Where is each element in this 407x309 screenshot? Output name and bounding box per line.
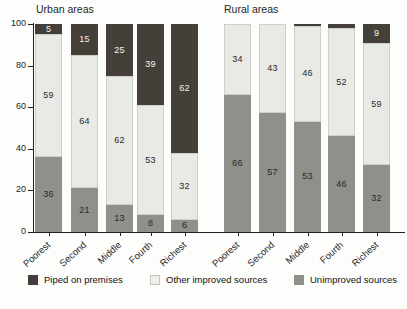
y-tick-label-60: 60 [0,101,26,111]
bar-segment-unimp: 57 [259,113,286,232]
bar-segment-unimp: 66 [224,95,251,232]
legend-item-unimproved: Unimproved sources [294,274,397,285]
y-tick-100 [28,24,33,25]
y-axis-line [33,23,34,233]
legend-label-piped: Piped on premises [44,274,123,285]
bar-value-label: 64 [79,117,89,126]
bar-value-label: 43 [267,64,277,73]
bar-segment-unimp: 46 [328,136,355,232]
bar-segment-unimp: 53 [294,122,321,232]
bar-rural-poorest[interactable]: 6634 [224,24,251,232]
bar-rural-richest[interactable]: 32599 [363,24,390,232]
legend-item-other-improved: Other improved sources [150,274,267,285]
bar-urban-middle[interactable]: 136225 [106,24,133,232]
bar-segment-other: 62 [106,76,133,205]
bar-urban-poorest[interactable]: 36595 [35,24,62,232]
bar-value-label: 13 [114,214,124,223]
bar-segment-piped [328,24,355,28]
y-tick-0 [28,232,33,233]
x-axis-line [33,232,405,233]
x-tick-6 [273,232,274,236]
bar-segment-piped: 62 [171,24,198,153]
bar-segment-piped [294,24,321,26]
y-tick-label-20: 20 [0,184,26,194]
legend-label-unimproved: Unimproved sources [310,274,397,285]
legend-swatch-unimproved [294,275,304,285]
bar-segment-unimp: 8 [137,215,164,232]
y-tick-60 [28,107,33,108]
bar-value-label: 9 [374,29,379,38]
bar-value-label: 66 [232,159,242,168]
plot-area: 020406080100 365952164151362258533963262… [0,0,407,309]
bar-segment-other: 34 [224,24,251,95]
bar-segment-other: 59 [35,34,62,157]
bar-value-label: 21 [79,206,89,215]
x-tick-1 [85,232,86,236]
y-tick-20 [28,190,33,191]
bar-value-label: 6 [182,221,187,230]
bar-value-label: 46 [302,69,312,78]
bar-value-label: 5 [46,25,51,34]
bar-segment-piped: 9 [363,24,390,43]
chart-figure: Urban areas Rural areas 020406080100 365… [0,0,407,309]
bar-segment-piped: 5 [35,24,62,34]
bar-value-label: 46 [336,180,346,189]
bar-segment-other: 32 [171,153,198,220]
bar-value-label: 52 [336,78,346,87]
y-tick-label-0: 0 [0,226,26,236]
bar-segment-other: 43 [259,24,286,113]
legend-item-piped: Piped on premises [28,274,123,285]
bar-value-label: 39 [145,60,155,69]
bar-segment-piped: 15 [71,24,98,55]
bar-value-label: 15 [79,35,89,44]
bar-segment-other: 64 [71,55,98,188]
bar-segment-unimp: 21 [71,188,98,232]
y-tick-40 [28,149,33,150]
bar-segment-other: 52 [328,28,355,136]
bar-segment-unimp: 13 [106,205,133,232]
bar-value-label: 32 [179,182,189,191]
bar-segment-unimp: 36 [35,157,62,232]
bar-value-label: 53 [302,172,312,181]
bar-rural-fourth[interactable]: 4652 [328,24,355,232]
x-tick-4 [185,232,186,236]
bar-value-label: 62 [114,136,124,145]
x-tick-3 [151,232,152,236]
bar-rural-middle[interactable]: 5346 [294,24,321,232]
y-tick-80 [28,66,33,67]
chart-legend: Piped on premises Other improved sources… [22,274,394,290]
bar-urban-second[interactable]: 216415 [71,24,98,232]
bar-rural-second[interactable]: 5743 [259,24,286,232]
bar-value-label: 57 [267,168,277,177]
bar-value-label: 32 [371,194,381,203]
bar-urban-fourth[interactable]: 85339 [137,24,164,232]
bar-value-label: 59 [371,100,381,109]
bar-value-label: 36 [43,190,53,199]
legend-swatch-other-improved [150,275,160,285]
bar-value-label: 62 [179,84,189,93]
bar-segment-other: 53 [137,105,164,215]
x-tick-8 [342,232,343,236]
x-tick-9 [377,232,378,236]
bar-segment-unimp: 6 [171,220,198,232]
x-tick-2 [120,232,121,236]
y-tick-label-100: 100 [0,18,26,28]
bar-segment-piped: 39 [137,24,164,105]
legend-label-other-improved: Other improved sources [166,274,267,285]
bar-value-label: 53 [145,156,155,165]
legend-swatch-piped [28,275,38,285]
y-tick-label-40: 40 [0,143,26,153]
bar-value-label: 59 [43,91,53,100]
bar-value-label: 34 [232,55,242,64]
bar-urban-richest[interactable]: 63262 [171,24,198,232]
bar-segment-unimp: 32 [363,165,390,232]
x-tick-7 [308,232,309,236]
bar-segment-other: 46 [294,26,321,122]
bar-value-label: 8 [148,219,153,228]
bar-value-label: 25 [114,46,124,55]
bar-segment-piped: 25 [106,24,133,76]
x-tick-5 [238,232,239,236]
x-tick-0 [49,232,50,236]
y-tick-label-80: 80 [0,60,26,70]
bar-segment-other: 59 [363,43,390,166]
